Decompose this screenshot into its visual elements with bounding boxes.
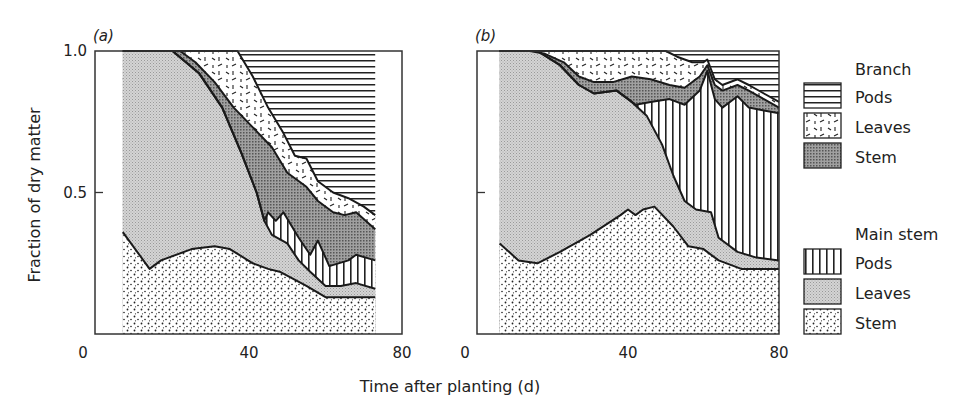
legend-label-branch-leaves: Leaves	[855, 118, 911, 137]
legend-swatch-main-pods	[804, 249, 841, 274]
legend-swatch-branch-leaves	[804, 113, 841, 138]
y-axis-label: Fraction of dry matter	[25, 107, 44, 283]
legend: Branch Pods Leaves Stem Main stem Pods L…	[804, 60, 938, 334]
panel-a: (a)0.51.004080	[63, 27, 411, 362]
y-tick-label: 0.5	[63, 184, 87, 202]
chart-root: (a)0.51.004080 (b)04080 Fraction of dry …	[0, 0, 965, 415]
x-tick-label: 0	[460, 344, 470, 362]
y-tick-label: 1.0	[63, 42, 87, 60]
panel-label: (a)	[93, 27, 114, 45]
panel-label: (b)	[475, 27, 496, 45]
legend-label-main-leaves: Leaves	[855, 284, 911, 303]
legend-label-branch-stem: Stem	[855, 148, 897, 167]
x-tick-label: 80	[769, 344, 788, 362]
x-tick-label: 80	[392, 344, 411, 362]
panel-b: (b)04080	[460, 27, 788, 362]
legend-swatch-main-stem	[804, 309, 841, 334]
legend-swatch-main-leaves	[804, 279, 841, 304]
legend-swatch-branch-pods	[804, 83, 841, 108]
x-tick-label: 40	[239, 344, 258, 362]
legend-group-main-title: Main stem	[855, 225, 938, 244]
legend-label-branch-pods: Pods	[855, 88, 892, 107]
x-tick-label: 40	[618, 344, 637, 362]
legend-label-main-pods: Pods	[855, 254, 892, 273]
legend-group-branch-title: Branch	[855, 60, 911, 79]
x-axis-label: Time after planting (d)	[359, 377, 540, 396]
x-tick-label: 0	[78, 344, 88, 362]
legend-swatch-branch-stem	[804, 143, 841, 168]
legend-label-main-stem: Stem	[855, 314, 897, 333]
